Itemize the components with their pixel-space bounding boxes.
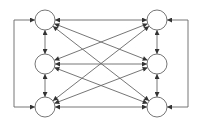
loop-left [14,20,35,107]
loop-right [167,20,188,107]
node-L2 [35,54,55,74]
node-R1 [147,10,167,30]
network-diagram [0,0,202,129]
node-L1 [35,10,55,30]
node-R2 [147,54,167,74]
node-R3 [147,97,167,117]
node-L3 [35,97,55,117]
